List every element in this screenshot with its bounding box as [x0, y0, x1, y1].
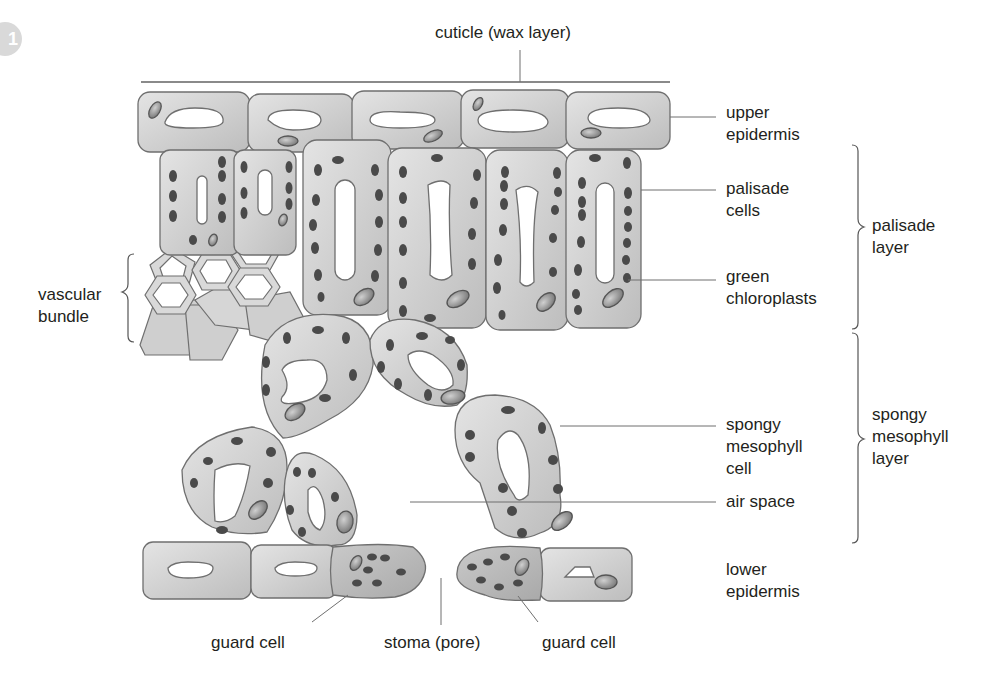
label-air-space: air space [726, 491, 795, 513]
leaf-illustration [0, 0, 984, 675]
spongy-mesophyll-cells [182, 314, 576, 546]
label-cuticle: cuticle (wax layer) [435, 22, 571, 44]
leaf-cross-section-diagram: 1 [0, 0, 984, 675]
cuticle [141, 50, 670, 82]
label-palisade-cells: palisade cells [726, 178, 789, 222]
label-guard-cell-left: guard cell [211, 632, 285, 654]
label-lower-epidermis: lower epidermis [726, 559, 800, 603]
label-stoma: stoma (pore) [384, 632, 480, 654]
guard-cell-right-shape [457, 546, 543, 600]
label-spongy-mesophyll-cell: spongy mesophyll cell [726, 414, 803, 480]
label-palisade-layer: palisade layer [872, 215, 935, 259]
label-spongy-mesophyll-layer: spongy mesophyll layer [872, 404, 949, 470]
lower-epidermis-cells [143, 542, 632, 601]
palisade-layer-bracket [852, 145, 864, 329]
label-green-chloroplasts: green chloroplasts [726, 266, 817, 310]
label-vascular-bundle: vascular bundle [38, 284, 101, 328]
label-upper-epidermis: upper epidermis [726, 102, 800, 146]
label-guard-cell-right: guard cell [542, 632, 616, 654]
vascular-bundle-bracket [122, 254, 134, 342]
guard-cell-left-shape [331, 545, 426, 599]
upper-epidermis-cells [138, 90, 670, 152]
spongy-layer-bracket [852, 333, 864, 543]
